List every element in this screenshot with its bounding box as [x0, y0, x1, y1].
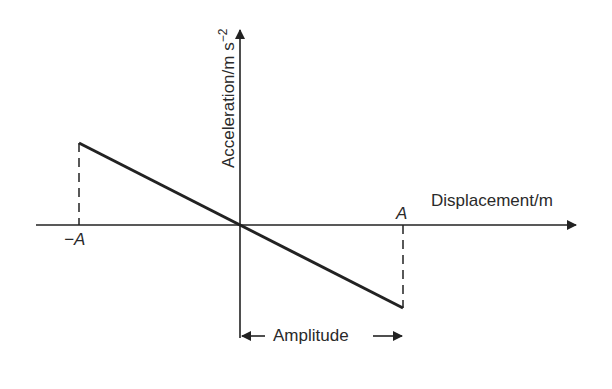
neg-amplitude-label: −A	[64, 230, 85, 250]
amplitude-label: Amplitude	[273, 326, 349, 346]
y-axis-label: Acceleration/m s−2	[216, 29, 239, 168]
x-axis-label: Displacement/m	[431, 191, 553, 211]
pos-amplitude-label: A	[396, 204, 407, 224]
